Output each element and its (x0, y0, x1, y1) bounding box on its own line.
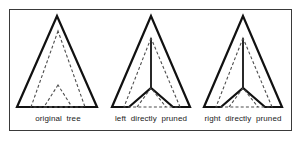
panel-original-tree (17, 16, 97, 107)
panel-left-directly-pruned (112, 16, 190, 107)
small-dashed-triangle-panel-0 (44, 85, 72, 107)
panel-caption-original-tree: original tree (12, 114, 104, 124)
outer-solid-triangle-panel-0 (17, 16, 97, 107)
panel-caption-right-directly-pruned: right directly pruned (196, 114, 290, 124)
inner-dashed-triangle-panel-0 (31, 31, 85, 107)
inner-dashed-triangle-panel-1 (124, 38, 180, 107)
panel-caption-left-directly-pruned: left directly pruned (104, 114, 198, 124)
figure-container: original tree left directly pruned right… (0, 0, 302, 144)
panel-right-directly-pruned (204, 16, 282, 107)
inner-dashed-triangle-panel-2 (216, 38, 272, 107)
